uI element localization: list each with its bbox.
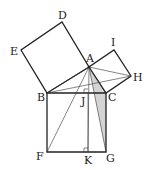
label-c: C — [108, 91, 116, 104]
label-b: B — [37, 91, 45, 104]
square-abde — [21, 22, 89, 93]
label-h: H — [133, 71, 143, 84]
geometry-diagram: A B C D E F G H I J K — [0, 0, 149, 170]
label-j: J — [80, 95, 85, 108]
label-d: D — [58, 9, 67, 22]
label-g: G — [106, 152, 115, 165]
label-e: E — [10, 45, 18, 58]
label-a: A — [85, 52, 95, 65]
label-f: F — [36, 150, 44, 163]
label-k: K — [84, 154, 93, 167]
point-a — [88, 66, 91, 69]
label-i: I — [111, 36, 115, 49]
construction-lines — [47, 67, 131, 152]
